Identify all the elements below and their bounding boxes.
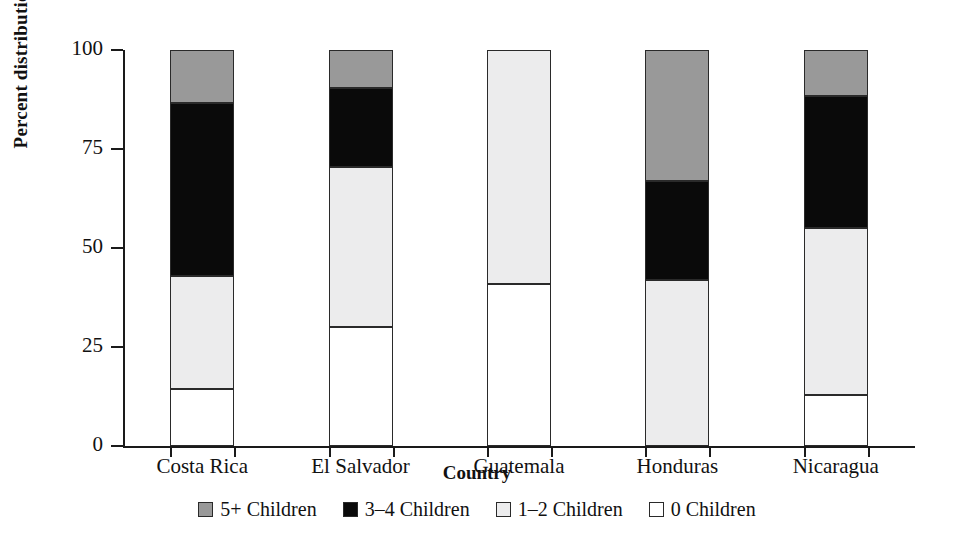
bar-segment-1-2-children[interactable] [804, 228, 868, 394]
legend-label: 3–4 Children [365, 498, 470, 521]
bar-honduras[interactable] [645, 50, 709, 446]
bar-segment-3-4-children[interactable] [170, 103, 234, 275]
legend-item[interactable]: 0 Children [649, 498, 756, 521]
y-tick-label: 50 [65, 234, 103, 259]
bar-segment-1-2-children[interactable] [487, 50, 551, 284]
chart-legend: 5+ Children3–4 Children1–2 Children0 Chi… [0, 498, 954, 521]
legend-swatch-light [496, 502, 511, 517]
bar-segment-5-children[interactable] [645, 50, 709, 181]
bar-costa-rica[interactable] [170, 50, 234, 446]
y-tick-label: 25 [65, 333, 103, 358]
y-tick-mark [111, 346, 123, 348]
legend-item[interactable]: 5+ Children [198, 498, 316, 521]
bar-segment-5-children[interactable] [170, 50, 234, 103]
legend-item[interactable]: 1–2 Children [496, 498, 623, 521]
bar-guatemala[interactable] [487, 50, 551, 446]
legend-swatch-gray [198, 502, 213, 517]
bar-segment-0-children[interactable] [804, 395, 868, 446]
plot-area: 0255075100Costa RicaEl SalvadorGuatemala… [123, 50, 915, 448]
y-tick-mark [111, 247, 123, 249]
legend-label: 5+ Children [220, 498, 316, 521]
bar-nicaragua[interactable] [804, 50, 868, 446]
chart-container: Percent distribution 0255075100Costa Ric… [0, 0, 954, 551]
y-axis-line [123, 50, 125, 448]
y-tick-mark [111, 445, 123, 447]
legend-swatch-black [343, 502, 358, 517]
legend-item[interactable]: 3–4 Children [343, 498, 470, 521]
bar-segment-1-2-children[interactable] [645, 280, 709, 446]
bar-segment-3-4-children[interactable] [329, 88, 393, 167]
bar-segment-1-2-children[interactable] [329, 167, 393, 327]
y-axis-title: Percent distribution [10, 0, 40, 190]
bar-segment-0-children[interactable] [329, 327, 393, 446]
bar-el-salvador[interactable] [329, 50, 393, 446]
y-tick-mark [111, 49, 123, 51]
legend-label: 0 Children [671, 498, 756, 521]
y-tick-mark [111, 148, 123, 150]
bar-segment-3-4-children[interactable] [645, 181, 709, 280]
legend-swatch-white [649, 502, 664, 517]
bar-segment-3-4-children[interactable] [804, 96, 868, 229]
bar-segment-0-children[interactable] [170, 389, 234, 446]
y-tick-label: 0 [65, 432, 103, 457]
bar-segment-5-children[interactable] [804, 50, 868, 96]
x-axis-line [123, 446, 915, 448]
x-axis-title: Country [0, 462, 954, 484]
bar-segment-1-2-children[interactable] [170, 276, 234, 389]
legend-label: 1–2 Children [518, 498, 623, 521]
bar-segment-0-children[interactable] [487, 284, 551, 446]
y-tick-label: 75 [65, 135, 103, 160]
bar-segment-5-children[interactable] [329, 50, 393, 88]
y-tick-label: 100 [65, 36, 103, 61]
